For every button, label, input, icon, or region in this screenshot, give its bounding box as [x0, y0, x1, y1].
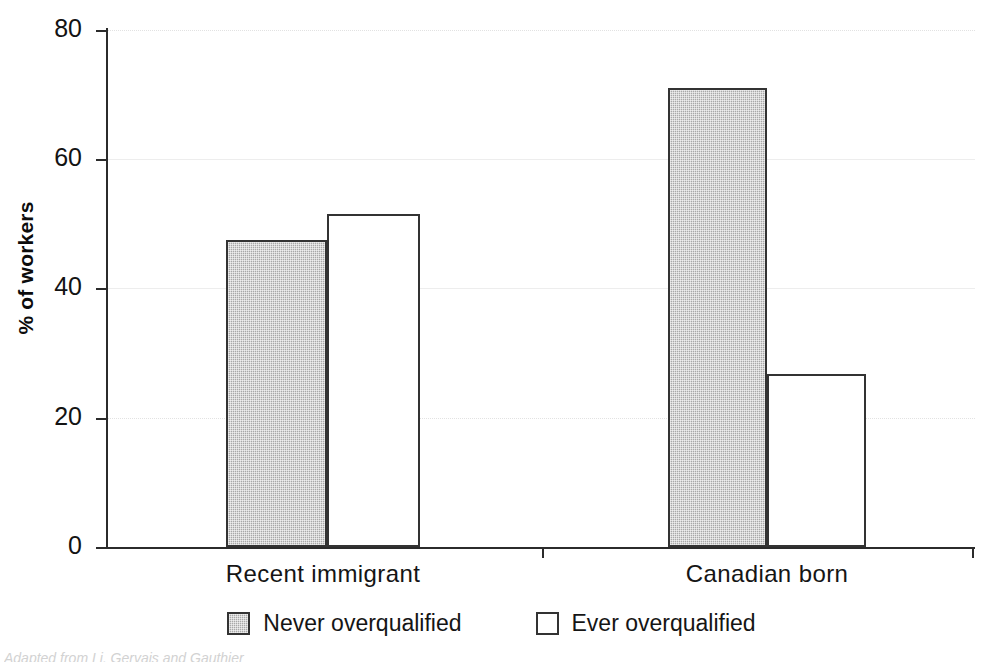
y-tick-40: 40: [96, 288, 107, 290]
plot-area: 80 60 40 20 0: [106, 30, 975, 547]
bar-canadian-born-ever-overqualified: [767, 374, 866, 547]
legend: Never overqualified Ever overqualified: [0, 610, 983, 637]
x-tick-group-separator: [542, 547, 544, 558]
y-tick-label-40: 40: [54, 274, 82, 299]
bar-recent-immigrant-ever-overqualified: [327, 214, 420, 547]
y-tick-label-20: 20: [54, 404, 82, 429]
white-swatch-icon: [536, 612, 559, 635]
y-tick-label-0: 0: [68, 533, 82, 558]
y-tick-80: 80: [96, 30, 107, 32]
bar-recent-immigrant-never-overqualified: [226, 240, 327, 547]
y-tick-label-60: 60: [54, 145, 82, 170]
x-axis-label-recent-immigrant: Recent immigrant: [226, 560, 420, 588]
y-tick-20: 20: [96, 418, 107, 420]
y-axis-title: % of workers: [14, 158, 38, 378]
x-tick-right-end: [972, 547, 974, 558]
x-axis-label-canadian-born: Canadian born: [686, 560, 849, 588]
legend-label-ever-overqualified: Ever overqualified: [572, 610, 756, 637]
bar-canadian-born-never-overqualified: [668, 88, 767, 547]
source-caption: Adapted from Li, Gervais and Gauthier: [4, 650, 704, 662]
legend-label-never-overqualified: Never overqualified: [263, 610, 461, 637]
gray-swatch-icon: [227, 612, 250, 635]
y-tick-60: 60: [96, 159, 107, 161]
y-tick-0: 0: [96, 547, 107, 549]
y-tick-label-80: 80: [54, 16, 82, 41]
legend-item-never-overqualified: Never overqualified: [227, 610, 461, 637]
legend-item-ever-overqualified: Ever overqualified: [536, 610, 756, 637]
bar-chart-figure: % of workers 80 60 40 20 0: [0, 0, 983, 662]
gridline-60: [108, 159, 975, 160]
gridline-80: [108, 30, 975, 32]
x-axis-line: [96, 547, 975, 549]
